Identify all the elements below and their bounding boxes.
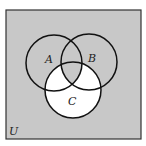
set-b-label: B (87, 52, 96, 65)
set-c-label: C (68, 95, 77, 108)
set-a-label: A (44, 53, 53, 66)
universe-label: U (9, 125, 19, 138)
venn-diagram: A B C U (0, 0, 146, 146)
